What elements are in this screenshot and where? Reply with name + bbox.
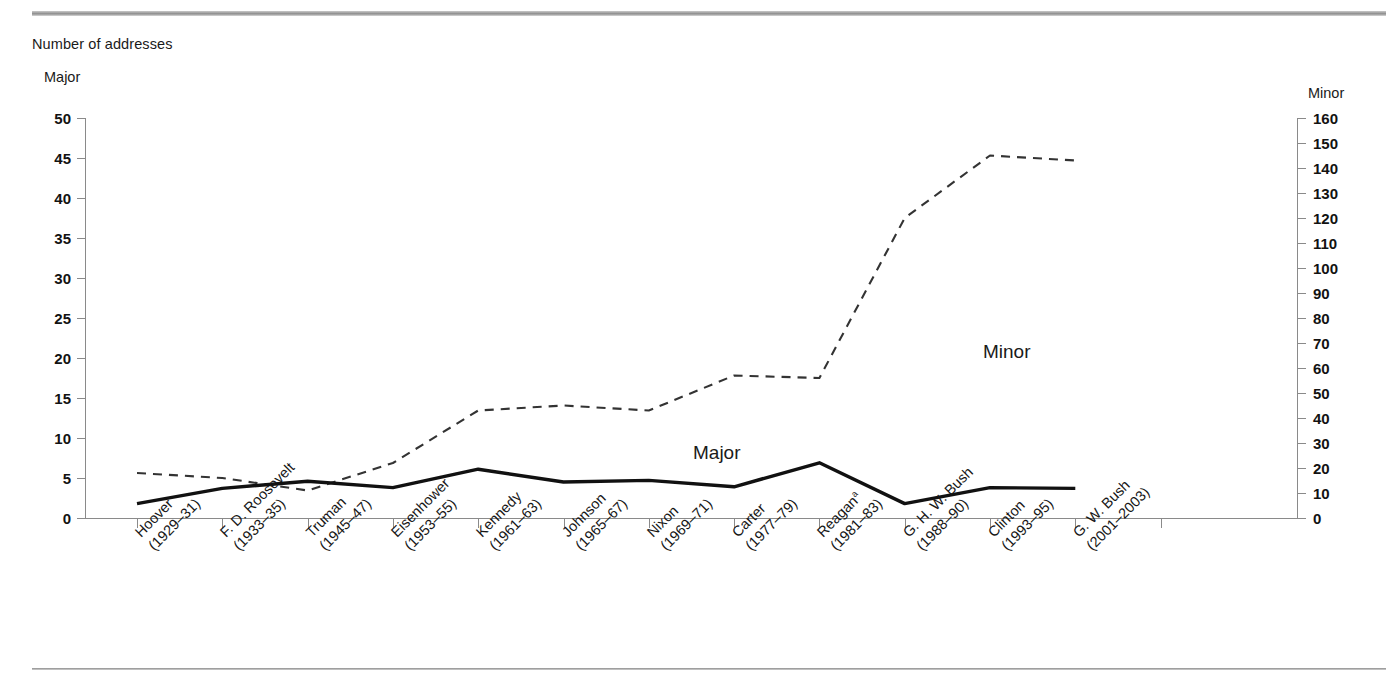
left-axis-line xyxy=(85,118,86,519)
right-tick-mark xyxy=(1298,268,1306,269)
x-category-label: Eisenhower(1953–55) xyxy=(387,474,468,555)
right-tick-label: 120 xyxy=(1313,211,1338,226)
left-tick-mark xyxy=(77,238,85,239)
x-category-label: Truman(1945–47) xyxy=(302,481,376,555)
right-tick-mark xyxy=(1298,368,1306,369)
plot-series-layer xyxy=(0,0,1393,687)
bottom-rule xyxy=(32,668,1386,670)
left-tick-mark xyxy=(77,478,85,479)
right-tick-mark xyxy=(1298,518,1306,519)
category-footnote-marker: a xyxy=(849,489,860,500)
right-tick-label: 70 xyxy=(1313,336,1330,351)
left-tick-mark xyxy=(77,398,85,399)
right-tick-mark xyxy=(1298,318,1306,319)
series-annotation-major: Major xyxy=(693,442,741,464)
right-tick-mark xyxy=(1298,118,1306,119)
right-tick-mark xyxy=(1298,343,1306,344)
right-tick-mark xyxy=(1298,418,1306,419)
right-tick-mark xyxy=(1298,143,1306,144)
x-category-label: Nixon(1969–71) xyxy=(643,481,717,555)
series-line-minor xyxy=(137,156,1075,491)
left-tick-label: 0 xyxy=(63,511,71,526)
right-tick-label: 90 xyxy=(1313,286,1330,301)
right-tick-mark xyxy=(1298,168,1306,169)
right-tick-label: 40 xyxy=(1313,411,1330,426)
right-tick-label: 130 xyxy=(1313,186,1338,201)
left-axis-title: Major xyxy=(44,69,80,85)
x-category-label: Reagana(1981–83) xyxy=(813,481,887,555)
x-tick-mark xyxy=(1161,519,1162,528)
right-axis-title: Minor xyxy=(1308,85,1344,101)
right-tick-mark xyxy=(1298,443,1306,444)
right-tick-label: 10 xyxy=(1313,486,1330,501)
left-tick-mark xyxy=(77,518,85,519)
right-tick-mark xyxy=(1298,393,1306,394)
x-category-label: Clinton(1993–95) xyxy=(984,481,1058,555)
left-tick-mark xyxy=(77,118,85,119)
right-tick-label: 80 xyxy=(1313,311,1330,326)
left-tick-label: 5 xyxy=(63,471,71,486)
right-tick-label: 140 xyxy=(1313,161,1338,176)
right-tick-label: 150 xyxy=(1313,136,1338,151)
left-tick-label: 35 xyxy=(54,231,71,246)
x-category-label: G. H. W. Bush(1988–90) xyxy=(899,463,991,555)
x-category-label: Kennedy(1961–63) xyxy=(472,481,546,555)
right-tick-mark xyxy=(1298,193,1306,194)
left-tick-label: 45 xyxy=(54,151,71,166)
right-tick-label: 100 xyxy=(1313,261,1338,276)
left-tick-mark xyxy=(77,278,85,279)
series-annotation-minor: Minor xyxy=(983,341,1031,363)
left-tick-mark xyxy=(77,358,85,359)
right-tick-label: 60 xyxy=(1313,361,1330,376)
right-tick-mark xyxy=(1298,468,1306,469)
right-tick-mark xyxy=(1298,293,1306,294)
right-tick-label: 50 xyxy=(1313,386,1330,401)
right-tick-mark xyxy=(1298,218,1306,219)
x-category-label: G. W. Bush(2001–2003) xyxy=(1069,470,1154,555)
left-tick-label: 30 xyxy=(54,271,71,286)
right-tick-label: 20 xyxy=(1313,461,1330,476)
x-category-label: F. D. Roosevelt(1933–35) xyxy=(216,458,313,555)
left-tick-label: 10 xyxy=(54,431,71,446)
right-tick-mark xyxy=(1298,243,1306,244)
left-tick-mark xyxy=(77,158,85,159)
right-tick-mark xyxy=(1298,493,1306,494)
x-category-label: Hoover(1929–31) xyxy=(131,481,205,555)
right-tick-label: 30 xyxy=(1313,436,1330,451)
chart-units-label: Number of addresses xyxy=(32,36,173,52)
top-rule xyxy=(32,11,1386,16)
x-category-label: Carter(1977–79) xyxy=(728,481,802,555)
left-tick-mark xyxy=(77,438,85,439)
right-tick-label: 0 xyxy=(1313,511,1321,526)
x-category-label: Johnson(1965–67) xyxy=(558,481,632,555)
right-tick-label: 160 xyxy=(1313,111,1338,126)
left-tick-mark xyxy=(77,318,85,319)
right-tick-label: 110 xyxy=(1313,236,1337,251)
left-tick-label: 40 xyxy=(54,191,71,206)
chart-figure: Number of addresses Major Minor 05101520… xyxy=(0,0,1393,687)
left-tick-label: 50 xyxy=(54,111,71,126)
left-tick-mark xyxy=(77,198,85,199)
left-tick-label: 20 xyxy=(54,351,71,366)
left-tick-label: 25 xyxy=(54,311,71,326)
left-tick-label: 15 xyxy=(54,391,71,406)
